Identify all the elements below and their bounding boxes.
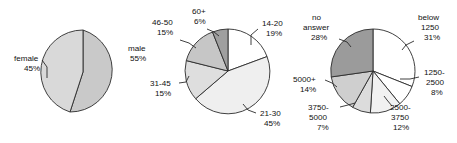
pie-label-31-45-line2: 15%: [155, 89, 171, 98]
pie-label-3750-5000-line2: 5000: [309, 113, 328, 122]
pie-label-below-1250: below 1250 31%: [418, 13, 440, 42]
pie-label-3750-5000: 3750- 5000 7%: [308, 103, 329, 132]
pie-slice-no-answer[interactable]: [331, 29, 373, 77]
pie-label-14-20-line2: 19%: [266, 29, 282, 38]
gender-pie-slices: [41, 30, 112, 112]
pie-label-male-line1: male: [128, 44, 146, 53]
pie-label-31-45-line1: 31-45: [150, 79, 171, 88]
income-pie-slices: [331, 29, 415, 113]
charts-canvas: female 45% male 55%: [0, 0, 457, 143]
pie-label-5000plus-line1: 5000+: [293, 75, 316, 84]
pie-label-3750-5000-line3: 7%: [317, 123, 329, 132]
gender-pie-chart: female 45% male 55%: [14, 30, 146, 112]
pie-label-60plus-line1: 60+: [192, 7, 206, 16]
pie-label-male: male 55%: [128, 44, 146, 63]
leader-line-46-50: [180, 40, 196, 48]
pie-label-1250-2500: 1250- 2500 8%: [424, 68, 445, 97]
pie-label-60plus-line2: 6%: [194, 17, 206, 26]
pie-label-14-20-line1: 14-20: [262, 19, 283, 28]
pie-label-31-45: 31-45 15%: [150, 79, 171, 98]
pie-label-5000plus: 5000+ 14%: [293, 75, 316, 94]
pie-label-1250-2500-line2: 2500: [426, 78, 445, 87]
pie-label-below-1250-line2: 1250: [421, 23, 440, 32]
pie-label-21-30-line2: 45%: [264, 119, 280, 128]
pie-label-46-50: 46-50 15%: [152, 18, 173, 37]
pie-label-5000plus-line2: 14%: [300, 85, 316, 94]
pie-label-21-30: 21-30 45%: [260, 109, 281, 128]
pie-label-1250-2500-line1: 1250-: [424, 68, 445, 77]
pie-label-no-answer-line2: answer: [303, 23, 329, 32]
pie-label-21-30-line1: 21-30: [260, 109, 281, 118]
pie-label-2500-3750-line3: 12%: [393, 123, 409, 132]
pie-chart-figure: female 45% male 55%: [0, 0, 457, 143]
pie-label-female-line2: 45%: [24, 64, 40, 73]
pie-label-2500-3750: 2500- 3750 12%: [390, 103, 411, 132]
age-pie-chart: 60+ 6% 46-50 15% 31-45 15% 14-20 19% 21-…: [150, 7, 283, 128]
pie-label-below-1250-line3: 31%: [424, 33, 440, 42]
pie-label-1250-2500-line3: 8%: [431, 88, 443, 97]
pie-label-46-50-line2: 15%: [157, 28, 173, 37]
pie-label-no-answer-line3: 28%: [311, 33, 327, 42]
pie-label-2500-3750-line2: 3750: [391, 113, 410, 122]
pie-label-female: female 45%: [14, 54, 40, 73]
pie-label-no-answer: no answer 28%: [303, 13, 329, 42]
pie-label-male-line2: 55%: [130, 54, 146, 63]
pie-label-60plus: 60+ 6%: [192, 7, 206, 26]
pie-label-3750-5000-line1: 3750-: [308, 103, 329, 112]
pie-label-2500-3750-line1: 2500-: [390, 103, 411, 112]
pie-label-no-answer-line1: no: [312, 13, 322, 22]
pie-label-female-line1: female: [14, 54, 39, 63]
pie-label-14-20: 14-20 19%: [262, 19, 283, 38]
income-pie-chart: no answer 28% below 1250 31% 1250- 2500 …: [293, 13, 445, 132]
age-pie-slices: [185, 29, 270, 114]
pie-label-46-50-line1: 46-50: [152, 18, 173, 27]
pie-label-below-1250-line1: below: [418, 13, 439, 22]
